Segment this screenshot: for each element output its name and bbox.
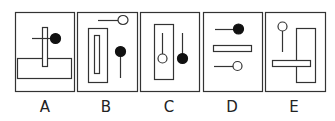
hollow-circle-icon [233, 62, 242, 71]
hollow-circle-icon [118, 16, 128, 25]
option-c-label: C [154, 98, 184, 116]
horizontal-bar [273, 61, 311, 67]
option-b-panel[interactable] [78, 13, 138, 92]
option-b-label: B [91, 98, 121, 116]
option-d-panel[interactable] [204, 13, 263, 92]
tall-rectangle [155, 25, 174, 80]
filled-circle-icon [51, 34, 61, 44]
option-e-frame [266, 13, 326, 92]
option-a-panel[interactable] [16, 13, 75, 92]
option-a-label: A [30, 98, 60, 116]
vertical-bar [43, 28, 48, 67]
tall-rectangle [297, 29, 316, 83]
tall-rectangle [89, 29, 108, 83]
horizontal-bar [214, 46, 252, 52]
option-d-label: D [217, 98, 247, 116]
hollow-circle-icon [278, 22, 287, 31]
filled-circle-icon [116, 47, 126, 57]
option-e-panel[interactable] [266, 13, 326, 92]
filled-circle-icon [234, 24, 244, 34]
filled-circle-icon [178, 54, 188, 64]
option-c-panel[interactable] [141, 13, 200, 92]
hollow-circle-icon [158, 54, 167, 63]
option-e-label: E [279, 98, 309, 116]
inner-slot [95, 36, 100, 74]
